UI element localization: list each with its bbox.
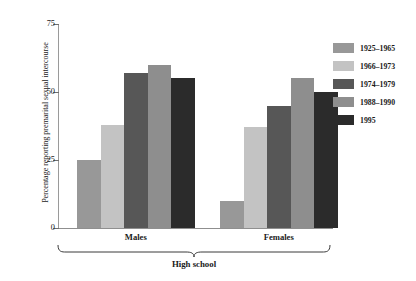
legend-swatch-icon — [333, 61, 354, 71]
bar-females-1988-1990 — [291, 78, 315, 228]
y-axis-title: Percentage reporting premarital sexual i… — [41, 8, 50, 238]
bar-females-1966-1973 — [244, 127, 268, 228]
legend-swatch-icon — [333, 115, 354, 125]
bar-females-1925-1965 — [220, 201, 244, 228]
chart-figure: Percentage reporting premarital sexual i… — [0, 0, 416, 281]
legend-label: 1995 — [360, 116, 376, 125]
legend-label: 1966–1973 — [360, 62, 395, 71]
bar-males-1925-1965 — [77, 160, 101, 228]
legend-item-0: 1925–1965 — [333, 39, 415, 57]
y-tick-label: 25 — [33, 154, 55, 166]
legend-item-3: 1988–1990 — [333, 93, 415, 111]
group-label-females: Females — [220, 232, 338, 242]
legend-label: 1925–1965 — [360, 44, 395, 53]
legend-swatch-icon — [333, 43, 354, 53]
legend-label: 1974–1979 — [360, 80, 395, 89]
bar-males-1988-1990 — [148, 65, 172, 228]
legend-swatch-icon — [333, 79, 354, 89]
plot-area: 0255075 — [58, 24, 333, 228]
bar-males-1974-1979 — [124, 73, 148, 228]
x-axis-line — [55, 228, 333, 229]
legend-item-4: 1995 — [333, 111, 415, 129]
bar-males-1966-1973 — [101, 125, 125, 228]
y-tick-label: 50 — [33, 86, 55, 98]
bar-series-layer — [58, 24, 333, 228]
bar-females-1974-1979 — [267, 106, 291, 228]
legend-item-1: 1966–1973 — [333, 57, 415, 75]
legend-swatch-icon — [333, 97, 354, 107]
bracket-label: High school — [56, 259, 332, 269]
group-label-males: Males — [77, 232, 195, 242]
legend-item-2: 1974–1979 — [333, 75, 415, 93]
y-tick-label: 0 — [33, 222, 55, 234]
bar-males-1995 — [171, 78, 195, 228]
y-tick-label: 75 — [33, 18, 55, 30]
chart-legend: 1925–19651966–19731974–19791988–19901995 — [333, 39, 415, 129]
legend-label: 1988–1990 — [360, 98, 395, 107]
group-bracket — [56, 244, 332, 258]
